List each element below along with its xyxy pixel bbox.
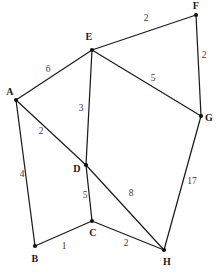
edge-weight-c-h: 2 — [124, 239, 129, 249]
vertex-dot-h — [162, 248, 166, 252]
edge-weight-c-d: 5 — [83, 191, 88, 201]
edge-a-d — [16, 100, 86, 165]
edge-weight-e-f: 2 — [144, 14, 149, 24]
edge-weight-b-c: 1 — [62, 242, 67, 252]
edge-weight-f-g: 2 — [202, 51, 207, 61]
vertex-dot-g — [199, 114, 203, 118]
vertex-dot-d — [84, 163, 88, 167]
graph-canvas — [0, 0, 216, 273]
vertex-dot-f — [194, 13, 198, 17]
edge-weight-e-g: 5 — [151, 74, 156, 84]
vertex-label-e: E — [86, 32, 93, 42]
vertex-dot-c — [90, 219, 94, 223]
graph-figure: 6241523825217 ABCDEFGH — [0, 0, 216, 273]
vertex-label-b: B — [32, 254, 39, 264]
vertex-label-c: C — [89, 228, 96, 238]
vertex-dot-b — [33, 244, 37, 248]
edge-weight-d-e: 3 — [79, 104, 84, 114]
vertex-label-g: G — [205, 113, 213, 123]
vertex-dot-e — [90, 48, 94, 52]
edge-weight-a-b: 4 — [20, 170, 25, 180]
edge-d-e — [86, 50, 92, 165]
vertex-label-a: A — [6, 87, 13, 97]
edge-a-e — [16, 50, 92, 100]
vertex-label-d: D — [73, 164, 80, 174]
edge-weight-a-e: 6 — [46, 65, 51, 75]
edge-d-h — [86, 165, 164, 250]
edge-weight-d-h: 8 — [129, 189, 134, 199]
vertex-dot-a — [14, 98, 18, 102]
edges-group — [16, 15, 201, 250]
edge-f-g — [196, 15, 201, 116]
vertex-label-h: H — [163, 257, 171, 267]
edge-weight-g-h: 17 — [187, 177, 197, 187]
edge-weight-a-d: 2 — [39, 127, 44, 137]
vertex-label-f: F — [193, 1, 199, 11]
edge-e-g — [92, 50, 201, 116]
